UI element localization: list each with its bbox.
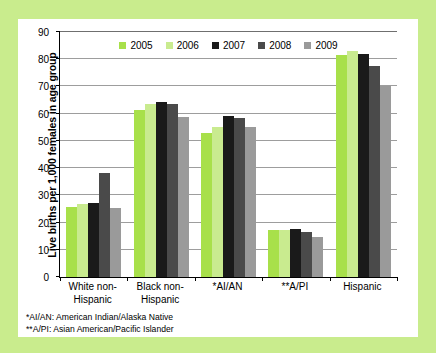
bar-2005 xyxy=(134,110,145,277)
bar-2005 xyxy=(336,55,347,277)
bar-2009 xyxy=(245,127,256,277)
x-axis-label: **A/PI xyxy=(261,281,328,306)
x-axis-label: Hispanic xyxy=(329,281,396,306)
x-axis-label: Black non-Hispanic xyxy=(126,281,193,306)
bar-2009 xyxy=(110,208,121,277)
bar-2007 xyxy=(88,203,99,277)
bar-2007 xyxy=(358,54,369,277)
bar-2006 xyxy=(279,230,290,277)
bar-2009 xyxy=(312,237,323,277)
bar-2007 xyxy=(156,102,167,277)
y-axis-tick-label: 40 xyxy=(38,163,49,174)
bar-2009 xyxy=(380,86,391,277)
bar-2006 xyxy=(347,51,358,277)
bar-2006 xyxy=(77,204,88,277)
bar-2005 xyxy=(268,230,279,277)
bar-2007 xyxy=(223,116,234,277)
bar-2005 xyxy=(66,207,77,277)
footnote: **A/PI: Asian American/Pacific Islander xyxy=(26,323,174,335)
y-axis-tick-label: 60 xyxy=(38,108,49,119)
x-axis-label: White non-Hispanic xyxy=(59,281,126,306)
y-axis-tick-label: 30 xyxy=(38,190,49,201)
chart-card: Live births per 1,000 females in age gro… xyxy=(18,19,418,337)
bar-group xyxy=(127,32,194,277)
bar-2008 xyxy=(369,66,380,277)
bar-2006 xyxy=(212,127,223,277)
plot-area: Live births per 1,000 females in age gro… xyxy=(59,32,397,278)
bar-2005 xyxy=(201,133,212,277)
chart-footnotes: *AI/AN: American Indian/Alaska Native**A… xyxy=(26,311,174,335)
bar-2008 xyxy=(99,173,110,277)
bar-group xyxy=(330,32,397,277)
x-axis-tick xyxy=(397,277,398,281)
bar-2007 xyxy=(290,229,301,277)
bar-2008 xyxy=(167,104,178,277)
bar-group xyxy=(60,32,127,277)
bar-groups xyxy=(60,32,397,277)
y-axis-tick-label: 80 xyxy=(38,54,49,65)
bar-2008 xyxy=(234,118,245,277)
bar-group xyxy=(195,32,262,277)
bar-2006 xyxy=(145,104,156,277)
bar-2008 xyxy=(301,232,312,277)
x-axis-labels: White non-HispanicBlack non-Hispanic*AI/… xyxy=(59,281,396,306)
y-axis-tick-label: 90 xyxy=(38,27,49,38)
y-axis-tick-label: 20 xyxy=(38,217,49,228)
y-axis-tick-label: 50 xyxy=(38,135,49,146)
bar-2009 xyxy=(178,117,189,277)
y-axis-tick-label: 0 xyxy=(43,272,49,283)
x-axis-label: *AI/AN xyxy=(194,281,261,306)
bar-group xyxy=(262,32,329,277)
y-axis-tick-label: 70 xyxy=(38,81,49,92)
y-axis-tick-label: 10 xyxy=(38,244,49,255)
footnote: *AI/AN: American Indian/Alaska Native xyxy=(26,311,174,323)
chart-figure: Live births per 1,000 females in age gro… xyxy=(0,0,436,353)
